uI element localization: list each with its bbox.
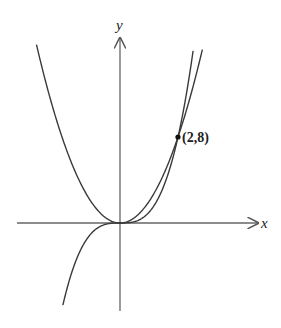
graph: (2,8) x y	[0, 0, 281, 328]
y-axis-label: y	[114, 17, 123, 33]
x-axis-label: x	[260, 215, 268, 231]
cubic-curve	[63, 51, 193, 305]
intersection-point	[175, 134, 180, 139]
point-label: (2,8)	[182, 130, 209, 146]
